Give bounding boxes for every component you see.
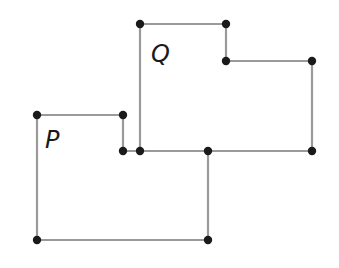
vertex-dot — [222, 57, 230, 65]
vertex-dot — [33, 111, 41, 119]
shape-label-q: Q — [151, 40, 170, 68]
shape-label-p: P — [45, 126, 60, 154]
vertex-dot — [308, 147, 316, 155]
shape-outline-p — [37, 115, 208, 240]
vertex-dot — [308, 57, 316, 65]
vertex-dot — [204, 147, 212, 155]
vertex-dot — [136, 147, 144, 155]
vertex-dot — [204, 236, 212, 244]
polygon-edges — [37, 24, 312, 240]
polygon-vertices — [33, 20, 316, 244]
vertex-dot — [119, 147, 127, 155]
vertex-dot — [222, 20, 230, 28]
vertex-dot — [136, 20, 144, 28]
diagram-canvas: P Q — [0, 0, 339, 268]
vertex-dot — [119, 111, 127, 119]
vertex-dot — [33, 236, 41, 244]
